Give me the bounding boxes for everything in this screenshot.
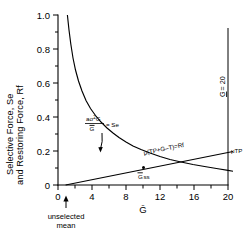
unselected-mean-caption-line1: unselected bbox=[48, 212, 85, 221]
unselected-mean-annotation: unselected mean bbox=[48, 196, 85, 231]
rf-equation-annotation: μ(TP+G–T)=Rf bbox=[143, 141, 185, 156]
se-curve-pointer-arrow bbox=[98, 133, 103, 153]
y-tick-label-0: 0 bbox=[45, 180, 50, 191]
y-axis-tick-labels: 1.0 0.8 0.6 0.4 0.2 0 bbox=[37, 10, 50, 191]
x-tick-label-4: 4 bbox=[89, 191, 94, 202]
y-tick-label-0.8: 0.8 bbox=[37, 44, 50, 55]
se-equation-annotation: aσ2G G = Se bbox=[85, 115, 119, 133]
x-tick-label-0: 0 bbox=[55, 191, 60, 202]
y-tick-label-0.2: 0.2 bbox=[37, 146, 50, 157]
y-axis-title-line2: and Restoring Force, Rf bbox=[15, 85, 25, 185]
x-axis-title-text: Ḡ bbox=[139, 204, 146, 215]
x-axis-title: Ḡ bbox=[139, 204, 146, 215]
se-equation-numerator: aσ2G bbox=[86, 115, 101, 123]
mu-tp-label: μTP bbox=[231, 147, 242, 154]
gss-label-subscript: ss bbox=[144, 173, 150, 180]
figure-panel: Selective Force, Se and Restoring Force,… bbox=[0, 0, 251, 233]
y-axis-title: Selective Force, Se and Restoring Force,… bbox=[5, 85, 25, 185]
unselected-mean-arrowhead bbox=[63, 196, 68, 202]
x-tick-label-8: 8 bbox=[123, 191, 128, 202]
se-equation-denominator: G bbox=[90, 125, 95, 132]
y-axis-title-line1: Selective Force, Se bbox=[5, 93, 15, 175]
y-tick-label-1.0: 1.0 bbox=[37, 10, 50, 21]
selective-restoring-force-chart: Selective Force, Se and Restoring Force,… bbox=[0, 0, 251, 233]
g-equals-20-label-G: G bbox=[218, 91, 227, 97]
rf-equation-text: μ(TP+G–T)=Rf bbox=[143, 141, 185, 156]
x-tick-label-16: 16 bbox=[189, 191, 200, 202]
gss-label: G ss bbox=[138, 173, 150, 180]
g-equals-20-label-value: = 20 bbox=[218, 76, 227, 90]
x-axis-tick-labels: 0 4 8 12 16 20 bbox=[55, 191, 233, 202]
g-equals-20-label: G = 20 bbox=[218, 76, 227, 97]
y-tick-label-0.4: 0.4 bbox=[37, 112, 50, 123]
y-tick-label-0.6: 0.6 bbox=[37, 78, 50, 89]
x-tick-label-12: 12 bbox=[155, 191, 166, 202]
intersection-point-marker bbox=[142, 166, 145, 169]
gss-label-G: G bbox=[138, 173, 143, 180]
se-curve-pointer-arrowhead bbox=[98, 147, 103, 153]
x-tick-label-20: 20 bbox=[223, 191, 234, 202]
se-equation-suffix: = Se bbox=[106, 121, 119, 128]
unselected-mean-caption-line2: mean bbox=[57, 221, 76, 230]
